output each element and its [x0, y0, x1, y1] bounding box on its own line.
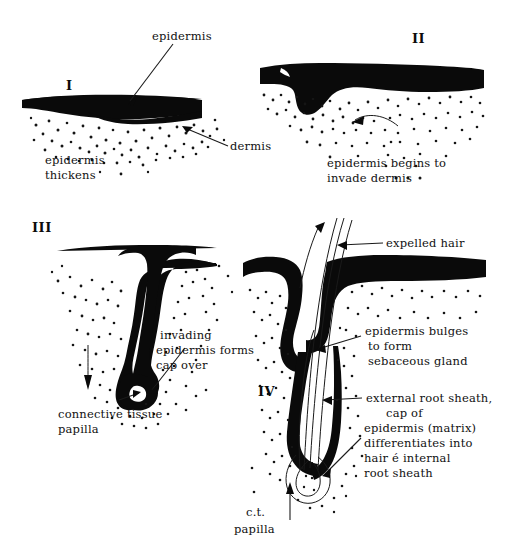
stage-2-caption-line2: invade dermis: [327, 171, 412, 185]
stage-2-numeral: II: [412, 31, 425, 46]
stage-4-label-seb-line1: epidermis bulges: [365, 324, 468, 338]
stage-4-label-seb-line3: sebaceous gland: [368, 354, 468, 368]
hair-follicle-development-figure: I epidermis thickens epidermis dermis: [0, 0, 513, 541]
stage-4-label-seb-line2: to form: [368, 339, 412, 353]
stage-4-label-ers-line6: root sheath: [364, 466, 433, 480]
label-dermis: dermis: [230, 139, 271, 153]
stage-3-ct-label-line1: connective tissue: [58, 407, 162, 421]
stage-1-numeral: I: [66, 78, 73, 93]
stage-4-label-ers-line4: differentiates into: [364, 436, 473, 450]
stage-4-label-ct-line2: papilla: [234, 522, 275, 536]
stage-3-ct-label-line2: papilla: [58, 422, 99, 436]
label-epidermis: epidermis: [152, 29, 212, 43]
stage-3-label-line3: cap over: [156, 358, 208, 372]
stage-4-label-ct-line1: c.t.: [246, 505, 265, 519]
figure-canvas: I epidermis thickens epidermis dermis: [0, 0, 513, 541]
stage-2-caption-line1: epidermis begins to: [327, 156, 446, 170]
stage-1-caption-line2: thickens: [45, 168, 96, 182]
stage-4-label-expelled-hair: expelled hair: [386, 236, 465, 250]
stage-3-label-line1: invading: [160, 328, 212, 342]
stage-1-caption-line1: epidermis: [45, 153, 105, 167]
stage-3-label-line2: epidermis forms: [156, 343, 254, 357]
stage-4-label-ers-line1: external root sheath,: [366, 391, 492, 405]
stage-4-label-ers-line3: epidermis (matrix): [364, 421, 476, 435]
stage-4-label-ers-line5: hair é internal: [364, 451, 451, 465]
stage-4-label-ers-line2: cap of: [386, 406, 423, 420]
stage-4-numeral: IV: [258, 384, 276, 399]
stage-3-numeral: III: [32, 220, 52, 235]
